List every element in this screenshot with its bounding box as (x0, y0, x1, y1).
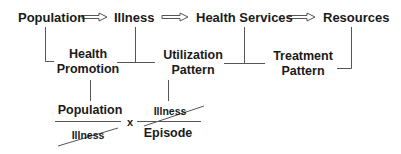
label-utilization-pattern: Pattern (171, 64, 214, 77)
fraction1-denominator: Illness (72, 130, 105, 141)
label-health: Health (69, 48, 107, 61)
label-treatment: Treatment (273, 50, 333, 63)
arrow-icon (82, 13, 107, 21)
fraction1-numerator: Population (58, 104, 123, 117)
fraction2-numerator: Illness (154, 106, 187, 117)
label-treatment-pattern: Pattern (281, 65, 324, 78)
node-illness: Illness (114, 11, 154, 24)
node-resources: Resources (323, 11, 389, 24)
node-population: Population (18, 11, 85, 24)
multiply-operator: x (127, 117, 133, 128)
label-utilization: Utilization (163, 49, 223, 62)
node-health-services: Health Services (196, 11, 293, 24)
arrow-icon (289, 13, 315, 21)
fraction2-denominator: Episode (144, 127, 193, 140)
label-promotion: Promotion (57, 63, 120, 76)
arrow-icon (162, 13, 188, 21)
